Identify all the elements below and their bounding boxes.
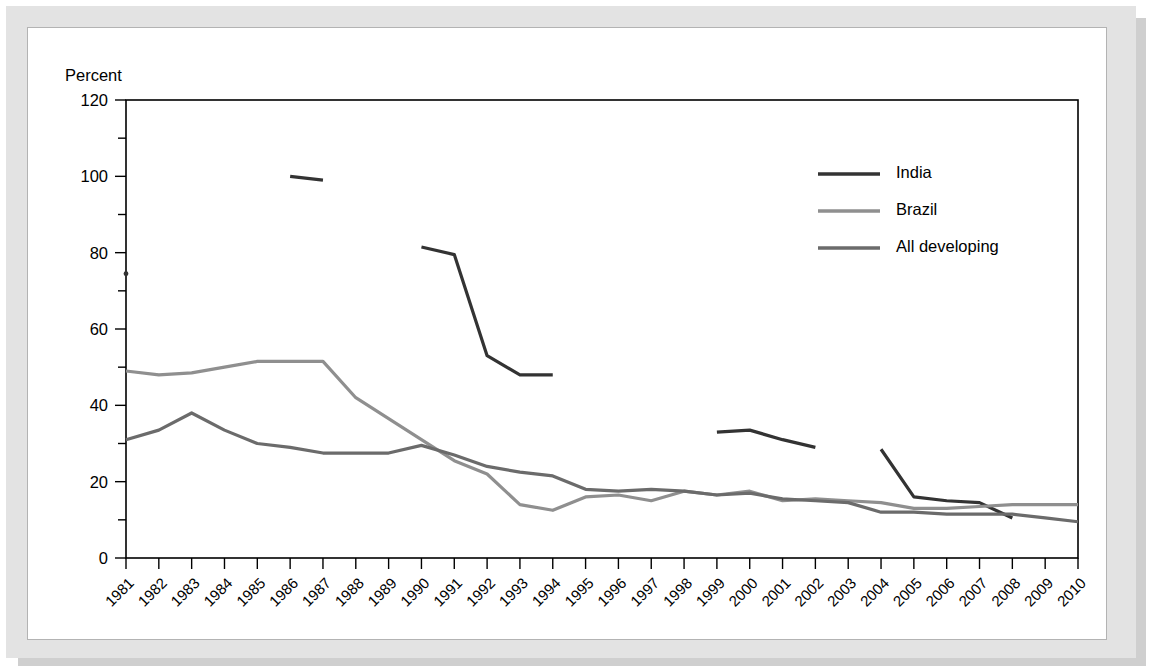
series-line-all-developing — [126, 413, 1078, 522]
x-tick-label: 1983 — [167, 574, 203, 610]
chart-area: Percent 020406080100120 1981198219831984… — [28, 28, 1108, 641]
series-line-india — [421, 247, 552, 375]
x-tick-label: 1998 — [660, 574, 696, 610]
legend-label-brazil: Brazil — [896, 200, 937, 218]
x-tick-label: 2001 — [758, 574, 794, 610]
y-tick-label: 60 — [90, 320, 108, 338]
x-tick-label: 2003 — [824, 574, 860, 610]
x-tick-label: 1981 — [102, 574, 138, 610]
series-line-india — [290, 176, 323, 180]
x-tick-label: 2007 — [955, 574, 991, 610]
x-tick-label: 1982 — [134, 574, 170, 610]
x-tick-label: 1997 — [627, 574, 663, 610]
line-chart-svg: 020406080100120 198119821983198419851986… — [28, 28, 1108, 641]
y-tick-label: 20 — [90, 473, 108, 491]
legend-label-india: India — [896, 163, 933, 181]
x-tick-label: 1986 — [266, 574, 302, 610]
series-line-brazil — [126, 361, 1078, 510]
isolated-data-point — [124, 271, 129, 276]
x-axis-ticks: 1981198219831984198519861987198819891990… — [102, 558, 1090, 610]
x-tick-label: 2010 — [1054, 574, 1090, 610]
legend-label-all-developing: All developing — [896, 237, 999, 255]
figure-root: Percent 020406080100120 1981198219831984… — [0, 0, 1156, 670]
x-tick-label: 1985 — [233, 574, 269, 610]
x-tick-label: 1988 — [331, 574, 367, 610]
figure-shadow-bottom — [18, 658, 1146, 666]
series-layer — [124, 176, 1078, 521]
y-tick-label: 80 — [90, 244, 108, 262]
y-axis-ticks: 020406080100120 — [80, 91, 126, 567]
chart-legend: IndiaBrazilAll developing — [818, 163, 999, 255]
figure-shadow-right — [1136, 18, 1146, 658]
x-tick-label: 1993 — [495, 574, 531, 610]
x-tick-label: 1995 — [561, 574, 597, 610]
chart-panel: Percent 020406080100120 1981198219831984… — [27, 27, 1107, 640]
x-tick-label: 1991 — [430, 574, 466, 610]
x-tick-label: 2009 — [1021, 574, 1057, 610]
y-tick-label: 40 — [90, 396, 108, 414]
series-line-india — [717, 430, 815, 447]
x-tick-label: 2002 — [791, 574, 827, 610]
y-tick-label: 0 — [99, 549, 108, 567]
y-tick-label: 120 — [80, 91, 108, 109]
x-tick-label: 1999 — [692, 574, 728, 610]
x-tick-label: 1984 — [200, 574, 236, 610]
x-tick-label: 2004 — [857, 574, 893, 610]
y-tick-label: 100 — [80, 167, 108, 185]
x-tick-label: 1994 — [528, 574, 564, 610]
x-tick-label: 2006 — [922, 574, 958, 610]
x-tick-label: 1987 — [298, 574, 334, 610]
x-tick-label: 1996 — [594, 574, 630, 610]
x-tick-label: 1992 — [463, 574, 499, 610]
x-tick-label: 2000 — [725, 574, 761, 610]
x-tick-label: 2005 — [889, 574, 925, 610]
x-tick-label: 1989 — [364, 574, 400, 610]
x-tick-label: 2008 — [988, 574, 1024, 610]
x-tick-label: 1990 — [397, 574, 433, 610]
